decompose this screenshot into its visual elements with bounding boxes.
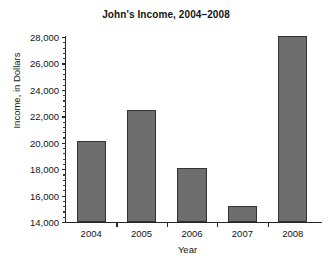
y-axis-minor-tick — [63, 148, 66, 149]
y-axis-minor-tick — [63, 174, 66, 175]
y-axis-tick-label: 28,000 — [30, 32, 59, 43]
y-axis-minor-tick — [63, 100, 66, 101]
x-axis-tick — [217, 222, 218, 227]
y-axis-tick — [62, 63, 67, 64]
y-axis-tick — [62, 90, 67, 91]
y-axis-tick-label: 16,000 — [30, 190, 59, 201]
x-axis-tick-label: 2007 — [232, 228, 253, 239]
y-axis-minor-tick — [63, 74, 66, 75]
y-axis-tick — [62, 196, 67, 197]
y-axis-minor-tick — [63, 48, 66, 49]
x-axis-tick — [116, 222, 117, 227]
x-axis-tick-label: 2008 — [282, 228, 303, 239]
y-axis-minor-tick — [63, 206, 66, 207]
bar-2007 — [228, 206, 257, 222]
y-axis-tick-label: 26,000 — [30, 58, 59, 69]
x-axis-tick-label: 2004 — [81, 228, 102, 239]
y-axis-tick-label: 14,000 — [30, 217, 59, 228]
y-axis-minor-tick — [63, 201, 66, 202]
y-axis-minor-tick — [63, 159, 66, 160]
y-axis-tick — [62, 143, 67, 144]
y-axis-minor-tick — [63, 132, 66, 133]
y-axis-minor-tick — [63, 153, 66, 154]
y-axis-minor-tick — [63, 180, 66, 181]
y-axis-minor-tick — [63, 122, 66, 123]
bar-2008 — [278, 36, 307, 222]
y-axis-tick — [62, 169, 67, 170]
bar-2006 — [177, 168, 206, 222]
x-axis-title: Year — [55, 244, 320, 255]
y-axis-tick — [62, 116, 67, 117]
y-axis-minor-tick — [63, 190, 66, 191]
y-axis-minor-tick — [63, 164, 66, 165]
y-axis-tick-label: 18,000 — [30, 164, 59, 175]
y-axis-minor-tick — [63, 211, 66, 212]
y-axis-minor-tick — [63, 53, 66, 54]
y-axis-tick — [62, 222, 67, 223]
x-axis-tick-label: 2006 — [181, 228, 202, 239]
y-axis-minor-tick — [63, 58, 66, 59]
bar-2004 — [77, 141, 106, 222]
y-axis-minor-tick — [63, 69, 66, 70]
y-axis-minor-tick — [63, 137, 66, 138]
y-axis-minor-tick — [63, 95, 66, 96]
plot-area — [66, 37, 318, 222]
y-axis-tick — [62, 37, 67, 38]
y-axis-minor-tick — [63, 79, 66, 80]
y-axis-tick-label: 20,000 — [30, 137, 59, 148]
y-axis-minor-tick — [63, 185, 66, 186]
y-axis-minor-tick — [63, 127, 66, 128]
y-axis-minor-tick — [63, 42, 66, 43]
bar-2005 — [127, 110, 156, 222]
y-axis-minor-tick — [63, 106, 66, 107]
x-axis-tick-label: 2005 — [131, 228, 152, 239]
x-axis-tick — [167, 222, 168, 227]
y-axis-minor-tick — [63, 217, 66, 218]
x-axis-tick — [268, 222, 269, 227]
y-axis-tick-label: 24,000 — [30, 84, 59, 95]
y-axis-title: Income, in Dollars — [11, 31, 22, 151]
chart-title: John's Income, 2004–2008 — [0, 9, 332, 20]
y-axis-minor-tick — [63, 85, 66, 86]
y-axis-tick-label: 22,000 — [30, 111, 59, 122]
bar-chart-figure: John's Income, 2004–2008 Income, in Doll… — [0, 0, 332, 269]
y-axis-minor-tick — [63, 111, 66, 112]
